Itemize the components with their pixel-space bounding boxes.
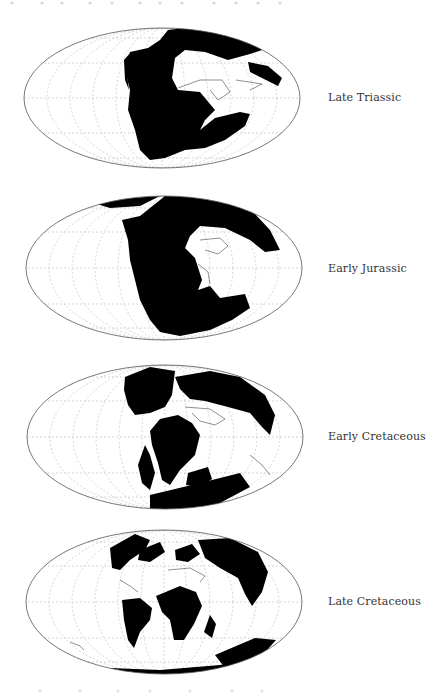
map-panel-late-triassic: Late Triassic [0, 0, 445, 180]
scan-bleed-bottom [0, 686, 445, 696]
coastlines [198, 238, 228, 284]
landmass [110, 534, 276, 678]
period-label: Early Jurassic [328, 262, 407, 275]
mollweide-map-late-cretaceous [0, 520, 320, 685]
mollweide-map-early-cretaceous [0, 355, 320, 520]
period-label: Late Triassic [328, 91, 401, 104]
map-panel-early-cretaceous: Early Cretaceous [0, 355, 445, 520]
mollweide-map-late-triassic [0, 0, 320, 180]
period-label: Late Cretaceous [328, 595, 421, 608]
mollweide-map-early-jurassic [0, 180, 320, 355]
landmass [124, 26, 282, 160]
map-panel-early-jurassic: Early Jurassic [0, 180, 445, 355]
period-label: Early Cretaceous [328, 430, 426, 443]
map-panel-late-cretaceous: Late Cretaceous [0, 520, 445, 685]
